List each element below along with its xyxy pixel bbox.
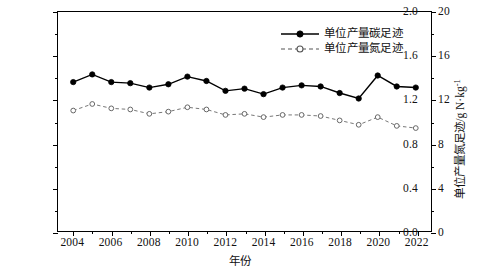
y-tick-right <box>431 145 436 146</box>
data-point <box>128 80 133 85</box>
y-tick-right <box>431 100 436 101</box>
data-point <box>147 111 152 116</box>
x-tick-minor <box>246 231 247 234</box>
y-tick-right <box>431 56 436 57</box>
x-axis-title: 年份 <box>0 252 479 268</box>
data-point <box>223 88 228 93</box>
x-tick-minor <box>399 231 400 234</box>
y-tick-left-minor <box>55 78 58 79</box>
plot-area: 单位产量碳足迹 单位产量氮足迹 <box>57 11 432 232</box>
y-axis-left-tick-label: 0.4 <box>403 182 418 194</box>
data-point <box>223 113 228 118</box>
y-tick-left <box>53 233 58 234</box>
data-point <box>109 79 114 84</box>
y-tick-right-minor <box>431 78 434 79</box>
x-tick-minor <box>92 231 93 234</box>
y-tick-left <box>53 12 58 13</box>
y-tick-left <box>53 56 58 57</box>
chart-figure: 单位产量碳足迹/kg CO2eq·kg-1 单位产量氮足迹/g N·kg-1 年… <box>0 0 479 278</box>
legend-label-carbon: 单位产量碳足迹 <box>324 26 403 41</box>
y-axis-right-tick-label: 12 <box>438 93 450 105</box>
y-tick-left-minor <box>55 34 58 35</box>
y-tick-right <box>431 12 436 13</box>
legend-label-nitrogen: 单位产量氮足迹 <box>324 41 403 56</box>
y-axis-right-title: 单位产量氮足迹/g N·kg-1 <box>451 79 467 199</box>
x-axis-tick-label: 2014 <box>252 236 276 248</box>
x-tick-minor <box>131 231 132 234</box>
y-tick-left <box>53 145 58 146</box>
y-tick-left <box>53 100 58 101</box>
y-axis-right-tick-label: 4 <box>438 182 444 194</box>
x-tick-minor <box>169 231 170 234</box>
data-point <box>204 78 209 83</box>
y-tick-right-minor <box>431 34 434 35</box>
data-point <box>375 73 380 78</box>
y-axis-left-tick-label: 1.2 <box>403 93 418 105</box>
data-point <box>128 107 133 112</box>
y-tick-left <box>53 189 58 190</box>
legend-item-nitrogen: 单位产量氮足迹 <box>280 41 403 56</box>
y-axis-right-tick-label: 20 <box>438 5 450 17</box>
y-tick-left-minor <box>55 211 58 212</box>
data-point <box>299 113 304 118</box>
data-point <box>166 82 171 87</box>
x-tick-minor <box>207 231 208 234</box>
data-point <box>280 113 285 118</box>
data-point <box>318 84 323 89</box>
data-point <box>299 83 304 88</box>
data-point <box>242 86 247 91</box>
data-point <box>375 115 380 120</box>
data-point <box>261 91 266 96</box>
data-point <box>318 114 323 119</box>
data-point <box>147 85 152 90</box>
x-axis-tick-label: 2008 <box>137 236 161 248</box>
y-tick-right <box>431 233 436 234</box>
data-point <box>71 108 76 113</box>
data-point <box>394 84 399 89</box>
data-point <box>185 105 190 110</box>
data-point <box>413 85 418 90</box>
legend-item-carbon: 单位产量碳足迹 <box>280 26 403 41</box>
data-point <box>204 107 209 112</box>
y-axis-left-tick-label: 1.6 <box>403 49 418 61</box>
x-axis-tick-label: 2012 <box>213 236 237 248</box>
y-axis-right-tick-label: 0 <box>438 226 444 238</box>
data-point <box>394 124 399 129</box>
legend-symbol-dashed-open-circle <box>280 43 320 55</box>
y-tick-left-minor <box>55 167 58 168</box>
y-axis-right-tick-label: 8 <box>438 138 444 150</box>
x-axis-tick-label: 2016 <box>290 236 314 248</box>
y-tick-right-minor <box>431 167 434 168</box>
data-point <box>166 109 171 114</box>
data-point <box>356 96 361 101</box>
x-axis-tick-label: 2022 <box>405 236 429 248</box>
data-point <box>242 111 247 116</box>
y-tick-left-minor <box>55 123 58 124</box>
y-axis-left-tick-label: 0.8 <box>403 138 418 150</box>
data-point <box>337 90 342 95</box>
x-tick-minor <box>360 231 361 234</box>
data-point <box>261 115 266 120</box>
data-point <box>109 106 114 111</box>
data-point <box>280 85 285 90</box>
x-axis-tick-label: 2010 <box>175 236 199 248</box>
data-point <box>90 102 95 107</box>
data-point <box>90 72 95 77</box>
data-point <box>71 79 76 84</box>
y-tick-right-minor <box>431 123 434 124</box>
x-axis-tick-label: 2020 <box>367 236 391 248</box>
data-point <box>185 74 190 79</box>
data-point <box>356 122 361 127</box>
y-axis-left-tick-label: 2.0 <box>403 5 418 17</box>
chart-legend: 单位产量碳足迹 单位产量氮足迹 <box>280 26 403 56</box>
y-tick-right-minor <box>431 211 434 212</box>
y-axis-right-tick-label: 16 <box>438 49 450 61</box>
y-tick-right <box>431 189 436 190</box>
legend-symbol-solid-filled-circle <box>280 28 320 40</box>
x-tick-minor <box>322 231 323 234</box>
x-axis-tick-label: 2018 <box>328 236 352 248</box>
x-axis-tick-label: 2004 <box>60 236 84 248</box>
data-point <box>337 118 342 123</box>
x-axis-tick-label: 2006 <box>99 236 123 248</box>
x-tick-minor <box>284 231 285 234</box>
